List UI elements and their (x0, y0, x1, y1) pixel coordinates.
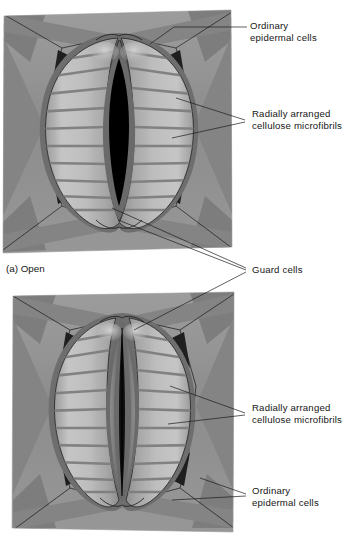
label-radial-microfibrils-bottom-line1: Radially arranged (252, 402, 330, 413)
label-guard-cells: Guard cells (252, 264, 303, 275)
label-ordinary-epidermal-top: Ordinary epidermal cells (250, 20, 317, 43)
label-radial-microfibrils-top-line2: cellulose microfibrils (252, 120, 342, 131)
label-ordinary-epidermal-bottom-line1: Ordinary (252, 485, 290, 496)
label-radial-microfibrils-top: Radially arranged cellulose microfibrils (252, 108, 342, 131)
panel-open (0, 5, 240, 260)
stomata-figure: Ordinary epidermal cells Radially arrang… (0, 0, 360, 539)
panel-closed (8, 288, 240, 538)
label-radial-microfibrils-bottom-line2: cellulose microfibrils (252, 414, 342, 425)
label-ordinary-epidermal-top-line1: Ordinary (250, 20, 288, 31)
label-ordinary-epidermal-bottom: Ordinary epidermal cells (252, 485, 319, 508)
guard-cell-apex-highlight-open (91, 42, 119, 62)
caption-panel-open: (a) Open (6, 263, 45, 274)
guard-cell-apex-highlight-open-right (120, 42, 148, 62)
label-radial-microfibrils-bottom: Radially arranged cellulose microfibrils (252, 402, 342, 425)
label-guard-cells-line1: Guard cells (252, 264, 303, 275)
guard-cell-apex-highlight-closed (98, 323, 122, 341)
label-ordinary-epidermal-top-line2: epidermal cells (250, 32, 317, 43)
label-radial-microfibrils-top-line1: Radially arranged (252, 108, 330, 119)
label-ordinary-epidermal-bottom-line2: epidermal cells (252, 497, 319, 508)
guard-cell-apex-highlight-closed-right (123, 323, 147, 341)
